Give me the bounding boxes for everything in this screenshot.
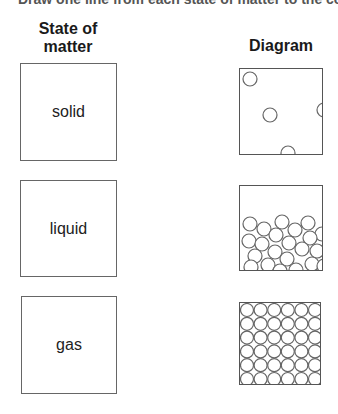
state-box-solid[interactable]: solid — [20, 63, 117, 161]
state-box-liquid[interactable]: liquid — [20, 180, 117, 277]
particles-graphic — [240, 303, 321, 385]
state-label: solid — [52, 103, 85, 121]
particles-graphic — [240, 186, 323, 271]
header-line1: State of — [20, 20, 116, 38]
packed-grid-particles-diagram[interactable] — [239, 302, 321, 385]
liquid-particles-diagram[interactable] — [239, 185, 323, 271]
state-box-gas[interactable]: gas — [21, 296, 117, 394]
header-state-of-matter: State of matter — [20, 20, 116, 56]
state-label: liquid — [50, 220, 87, 238]
state-label: gas — [56, 336, 82, 354]
particles-graphic — [240, 69, 323, 155]
sparse-particles-diagram[interactable] — [239, 68, 323, 155]
header-diagram: Diagram — [239, 37, 323, 55]
instruction-text: Draw one line from each state of matter … — [18, 0, 338, 7]
header-line2: matter — [20, 38, 116, 56]
